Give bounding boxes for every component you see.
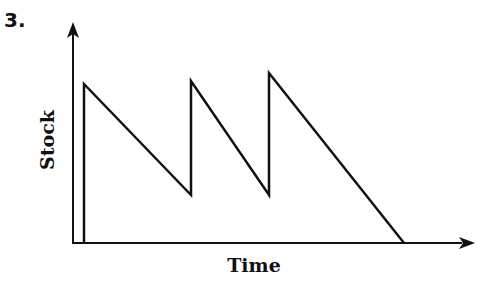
x-axis-label: Time: [227, 254, 281, 276]
stock-time-diagram: Time Stock: [0, 0, 477, 281]
y-axis-label: Stock: [36, 109, 58, 170]
stock-line: [84, 73, 404, 243]
